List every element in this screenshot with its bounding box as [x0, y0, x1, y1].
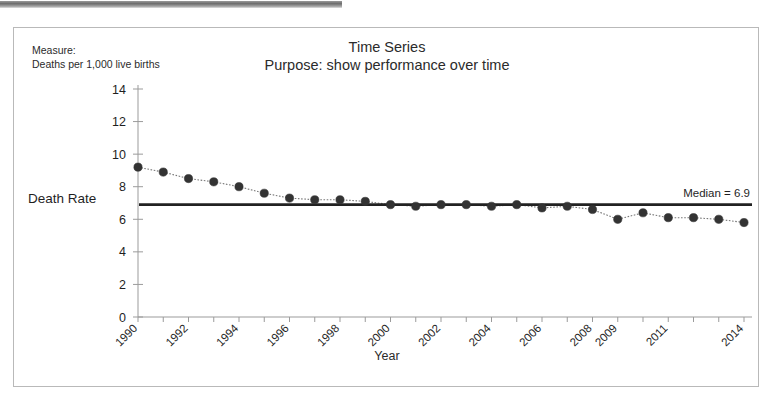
x-tick-label: 2006: [517, 322, 544, 349]
data-point-marker: [336, 196, 344, 204]
data-point: [689, 214, 697, 222]
data-point-marker: [487, 202, 495, 210]
scan-artifact-bar: [0, 1, 342, 8]
data-point-marker: [235, 183, 243, 191]
data-point: [311, 196, 319, 204]
median-label: Median = 6.9: [683, 187, 750, 199]
data-point: [513, 201, 521, 209]
x-tick-label: 1998: [315, 322, 342, 349]
data-point-marker: [437, 201, 445, 209]
data-point-marker: [210, 178, 218, 186]
data-point: [715, 215, 723, 223]
data-point-marker: [311, 196, 319, 204]
x-tick-label: 2004: [466, 322, 493, 349]
x-tick-label: 1996: [264, 322, 291, 349]
data-point: [437, 201, 445, 209]
data-point-marker: [639, 209, 647, 217]
data-point: [614, 215, 622, 223]
data-point-marker: [740, 218, 748, 226]
data-point-marker: [538, 204, 546, 212]
data-series-line: [138, 167, 744, 222]
data-point: [235, 183, 243, 191]
x-tick-label: 2008: [567, 322, 594, 349]
data-point: [134, 163, 142, 171]
data-point: [639, 209, 647, 217]
data-point-marker: [462, 201, 470, 209]
data-point-marker: [664, 214, 672, 222]
data-point-marker: [689, 214, 697, 222]
y-tick-label: 4: [119, 245, 126, 259]
data-point: [740, 218, 748, 226]
data-point: [487, 202, 495, 210]
x-tick-label: 2011: [644, 322, 670, 348]
data-point-marker: [134, 163, 142, 171]
data-point: [538, 204, 546, 212]
y-tick-label: 8: [119, 180, 126, 194]
x-tick-label: 2014: [719, 322, 746, 349]
data-point: [260, 189, 268, 197]
y-tick-label: 6: [119, 213, 126, 227]
plot-area: 0246810121419901992199419961998200020022…: [14, 28, 760, 388]
data-point: [386, 201, 394, 209]
x-tick-label: 2002: [416, 322, 443, 349]
x-tick-label: 1990: [113, 322, 140, 349]
data-point-marker: [386, 201, 394, 209]
x-tick-label: 2000: [365, 322, 392, 349]
y-tick-label: 10: [112, 148, 126, 162]
data-point-marker: [588, 205, 596, 213]
data-point: [285, 194, 293, 202]
y-tick-label: 12: [112, 115, 126, 129]
data-point-marker: [184, 174, 192, 182]
data-point: [664, 214, 672, 222]
x-tick-label: 2009: [593, 322, 620, 349]
x-axis-label: Year: [14, 349, 760, 363]
data-point: [361, 197, 369, 205]
data-point-marker: [361, 197, 369, 205]
x-tick-label: 1994: [214, 322, 241, 349]
data-point: [588, 205, 596, 213]
data-point: [159, 168, 167, 176]
data-point-marker: [513, 201, 521, 209]
data-point: [210, 178, 218, 186]
x-tick-label: 1992: [163, 322, 190, 349]
data-point: [412, 202, 420, 210]
data-point-marker: [285, 194, 293, 202]
data-point-marker: [563, 202, 571, 210]
data-point: [184, 174, 192, 182]
data-point-marker: [715, 215, 723, 223]
y-tick-label: 2: [119, 278, 126, 292]
data-point-marker: [260, 189, 268, 197]
data-point-marker: [412, 202, 420, 210]
data-point: [336, 196, 344, 204]
y-tick-label: 0: [119, 311, 126, 325]
y-tick-label: 14: [112, 83, 126, 97]
chart-frame: Measure: Deaths per 1,000 live births Ti…: [13, 27, 759, 387]
data-point: [563, 202, 571, 210]
data-point-marker: [614, 215, 622, 223]
data-point: [462, 201, 470, 209]
data-point-marker: [159, 168, 167, 176]
